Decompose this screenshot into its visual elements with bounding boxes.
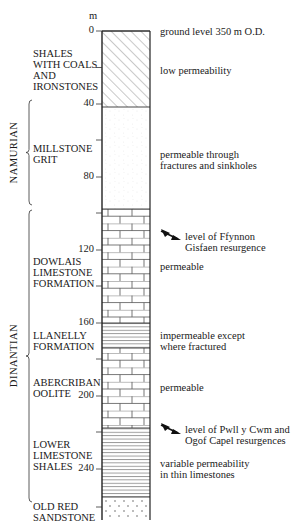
permeability-note: impermeable except where fractured	[160, 330, 245, 352]
layer-old-red	[102, 497, 150, 520]
depth-tick-label: 120	[64, 244, 94, 254]
depth-tick-label: 0	[64, 25, 94, 35]
permeability-note: permeable	[160, 261, 204, 272]
scale-unit-label: m	[89, 10, 97, 21]
unit-label: LLANELLY FORMATION	[33, 330, 94, 352]
system-label-dinantian: DINANTIAN	[8, 306, 19, 406]
resurgence-level-annotation: level of Ffynnon Gisfaen resurgence	[185, 231, 266, 253]
permeability-note: permeable through fractures and sinkhole…	[160, 149, 257, 171]
depth-tick-label: 80	[64, 171, 94, 181]
permeability-note: variable permeability in thin limestones	[160, 458, 250, 480]
unit-label: SHALES WITH COALS AND IRONSTONES	[33, 48, 98, 92]
layer-dowlais	[102, 209, 150, 323]
layer-shales	[102, 31, 150, 107]
arrow-icon	[161, 229, 181, 240]
depth-tick-label: 160	[64, 317, 94, 327]
unit-label: MILLSTONE GRIT	[33, 143, 92, 165]
unit-label: ABERCRIBAN OOLITE	[33, 377, 101, 399]
unit-label: OLD RED SANDSTONE	[33, 501, 95, 523]
ground-level-annotation: ground level 350 m O.D.	[160, 26, 265, 37]
permeability-note: low permeability	[160, 65, 231, 76]
resurgence-level-annotation: level of Pwll y Cwm and Ogof Capel resur…	[185, 424, 290, 446]
unit-label: DOWLAIS LIMESTONE FORMATION	[33, 256, 94, 289]
layer-millstone	[102, 107, 150, 209]
layer-lower	[102, 428, 150, 497]
depth-tick-label: 40	[64, 98, 94, 108]
permeability-note: permeable	[160, 382, 204, 393]
unit-label: LOWER LIMESTONE SHALES	[33, 439, 92, 472]
system-label-namurian: NAMURIAN	[8, 102, 19, 202]
layer-abercriban	[102, 348, 150, 428]
layer-llanelly	[102, 323, 150, 348]
arrow-icon	[161, 423, 181, 434]
